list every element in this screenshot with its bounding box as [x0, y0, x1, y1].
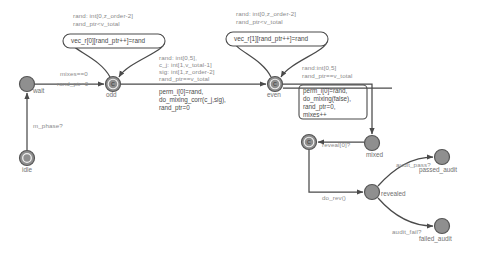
state-revealed[interactable] [365, 185, 380, 200]
action-commit-to-revealed: do_rev() [322, 194, 346, 201]
state-label-idle: idle [22, 166, 32, 173]
committed-marker-odd: C [111, 81, 115, 87]
guard-wait-to-odd: mixes==0 [60, 70, 88, 77]
state-label-failed-audit: failed_audit [419, 235, 452, 242]
committed-marker-reveal: C [307, 139, 311, 145]
action-odd-loop: vec_r[0][rand_ptr++]=rand [71, 37, 145, 45]
state-mixed[interactable] [365, 136, 380, 151]
state-label-odd: odd [106, 91, 117, 98]
states-layer [20, 77, 450, 234]
action-even-loop: vec_r[1][rand_ptr++]=rand [234, 35, 308, 43]
edge-commit-to-revealed [309, 150, 363, 192]
state-idle-outer[interactable] [20, 151, 35, 166]
action-even-to-mixed-line2: do_mixing(false), [303, 95, 351, 103]
guard-odd-to-even-line4: rand_ptr==v_total [159, 75, 210, 82]
state-label-mixed: mixed [366, 151, 383, 158]
guard-idle-to-wait: m_phase? [33, 122, 63, 129]
action-even-to-mixed-line1: perm_i[0]=rand, [303, 87, 347, 95]
guard-even-to-mixed-line2: rand_ptr==v_total [302, 72, 353, 79]
guard-even-loop-line2: rand_ptr<v_total [236, 18, 283, 25]
guard-mixed-to-commit: reveal[0]? [322, 141, 350, 148]
guard-odd-loop-line1: rand: int[0,z_order-2] [73, 12, 133, 19]
state-passed-audit[interactable] [435, 150, 450, 165]
action-even-to-mixed-line4: mixes++ [303, 111, 327, 119]
action-odd-to-even-line2: do_mixing_corr(c_j,sig), [159, 96, 226, 104]
state-failed-audit[interactable] [435, 219, 450, 234]
action-odd-to-even-line1: perm_i[0]=rand, [159, 88, 203, 96]
action-wait-to-odd: rand_ptr=0 [57, 80, 88, 87]
state-label-revealed: revealed [381, 190, 406, 197]
action-even-to-mixed-line3: rand_ptr=0, [303, 103, 335, 111]
committed-marker-even: C [273, 81, 277, 87]
guard-revealed-to-passed: audit_pass? [396, 161, 431, 168]
guard-revealed-to-failed: audit_fail? [392, 228, 422, 235]
guard-even-loop-line1: rand: int[0,z_order-2] [236, 10, 296, 17]
guard-odd-loop-line2: rand_ptr<v_total [73, 20, 120, 27]
state-machine-diagram: C C C idle wait odd even mixed revealed … [0, 0, 484, 253]
guard-even-to-mixed-line1: rand:int[0,5] [302, 64, 336, 71]
state-label-even: even [267, 91, 281, 98]
edge-revealed-to-failed [378, 198, 433, 226]
state-label-wait: wait [33, 87, 44, 94]
action-odd-to-even-line3: rand_ptr=0 [159, 104, 190, 112]
